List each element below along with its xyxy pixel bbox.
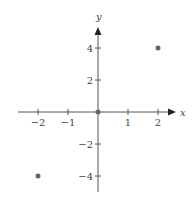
y-tick-label: 4 (87, 43, 93, 54)
y-axis-label: y (95, 11, 102, 22)
x-tick-label: −2 (31, 117, 46, 128)
x-tick-label: 1 (125, 117, 131, 128)
coordinate-plane: xy−2−11242−2−4 (0, 0, 195, 202)
y-tick-label: 2 (87, 75, 93, 86)
data-point (96, 110, 101, 115)
y-tick-label: −4 (78, 171, 93, 182)
y-axis-arrow-icon (95, 27, 102, 35)
data-point (36, 174, 41, 179)
data-point (156, 46, 161, 51)
x-tick-label: −1 (61, 117, 76, 128)
x-tick-label: 2 (155, 117, 161, 128)
x-axis-label: x (180, 107, 186, 118)
y-tick-label: −2 (78, 139, 93, 150)
x-axis-arrow-icon (168, 109, 176, 116)
